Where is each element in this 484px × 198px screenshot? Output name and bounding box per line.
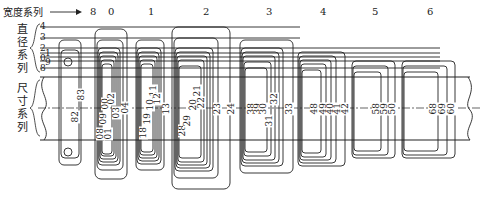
code-18: 18 — [139, 126, 148, 139]
diameter-series-char: 系 — [16, 49, 28, 62]
diameter-8: 8 — [40, 64, 46, 73]
width-series-2: 2 — [203, 6, 209, 17]
width-series-8: 8 — [90, 6, 96, 17]
width-series-1: 1 — [148, 6, 154, 17]
code-13: 13 — [162, 102, 171, 115]
dimension-series-char: 尺 — [16, 82, 28, 95]
diameter-series-char: 径 — [16, 36, 28, 49]
diameter-3: 3 — [40, 33, 46, 42]
diameter-series-char: 列 — [16, 62, 28, 75]
dimension-series-char: 寸 — [16, 95, 28, 108]
width-series-title: 宽度系列 — [3, 7, 43, 18]
code-32: 32 — [270, 92, 279, 105]
width-series-0: 0 — [108, 6, 114, 17]
code-24: 24 — [227, 102, 236, 115]
code-60: 60 — [447, 102, 456, 115]
code-33: 33 — [285, 102, 294, 115]
diameter-series-char: 直 — [16, 23, 28, 36]
code-42: 42 — [341, 102, 350, 115]
width-series-5: 5 — [372, 6, 378, 17]
bearing-dimension-diagram — [0, 0, 484, 198]
code-83: 83 — [77, 88, 86, 101]
code-02: 02 — [107, 92, 116, 105]
code-23: 23 — [213, 102, 222, 115]
width-series-6: 6 — [427, 6, 433, 17]
code-82: 82 — [71, 110, 80, 123]
code-09: 09 — [99, 112, 108, 125]
code-04: 04 — [121, 101, 130, 114]
code-50: 50 — [388, 102, 397, 115]
diameter-4: 4 — [40, 22, 46, 31]
width-series-4: 4 — [320, 6, 326, 17]
code-19: 19 — [143, 112, 152, 125]
code-01: 01 — [104, 127, 113, 140]
code-22: 22 — [197, 96, 206, 109]
code-31: 31 — [265, 114, 274, 127]
dimension-series-char: 列 — [16, 121, 28, 134]
dimension-series-char: 系 — [16, 108, 28, 121]
code-29: 29 — [183, 114, 192, 127]
width-series-3: 3 — [266, 6, 272, 17]
